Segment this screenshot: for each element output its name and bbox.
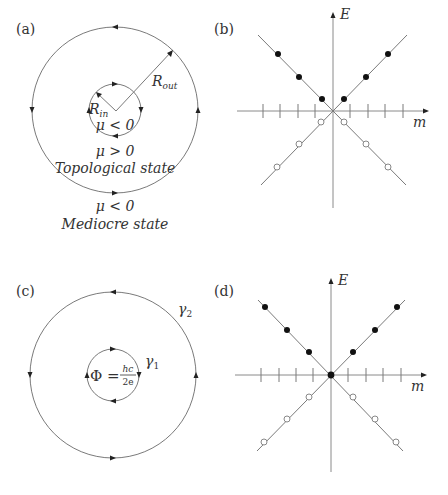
x-axis-arrow-icon [423, 109, 429, 114]
panel-a: (a) Rin Rout μ < 0 μ > 0 Topological sta… [16, 21, 201, 232]
arrow-left-icon [110, 399, 116, 404]
panel-d-label: (d) [214, 283, 234, 299]
x-axis-label: m [411, 378, 424, 394]
arrow-up-icon [196, 107, 201, 113]
panel-b-label: (b) [214, 21, 234, 37]
zero-mode-dot [328, 372, 335, 379]
empty-states [261, 394, 399, 445]
y-axis-label: E [337, 272, 348, 288]
arrow-down-icon [137, 372, 142, 378]
r-out-label: Rout [151, 73, 178, 91]
x-axis-arrow-icon [421, 373, 427, 378]
annulus-region-label: μ > 0 [96, 143, 135, 159]
inner-region-label: μ < 0 [96, 117, 135, 133]
arrow-left-icon [110, 290, 116, 295]
panel-b: (b) E m [214, 6, 429, 208]
y-axis-arrow-icon [331, 12, 336, 18]
arrow-right-icon [112, 191, 118, 196]
topological-state-label: Topological state [55, 160, 176, 176]
x-axis-label: m [413, 114, 426, 130]
arrow-left-icon [112, 25, 118, 30]
flux-numerator: hc [123, 364, 134, 374]
flux-denominator: 2e [122, 377, 133, 387]
panel-c: (c) Φ = hc 2e γ1 γ2 [16, 283, 199, 461]
arrow-left-icon [112, 134, 118, 139]
arrow-down-icon [30, 107, 35, 113]
arrow-right-icon [110, 456, 116, 461]
panel-d: (d) E m [214, 272, 427, 472]
arrow-up-icon [85, 372, 90, 378]
flux-lhs: Φ = [90, 367, 120, 385]
arrow-down-icon [28, 372, 33, 378]
figure: (a) Rin Rout μ < 0 μ > 0 Topological sta… [0, 0, 448, 495]
mediocre-state-label: Mediocre state [61, 216, 169, 232]
y-axis-label: E [339, 6, 350, 22]
y-axis-arrow-icon [329, 278, 334, 284]
arrow-right-icon [110, 347, 116, 352]
panel-c-label: (c) [16, 283, 35, 299]
gamma1-label: γ1 [145, 353, 159, 371]
outer-region-label: μ < 0 [96, 198, 135, 214]
arrow-right-icon [112, 82, 118, 87]
panel-a-label: (a) [16, 21, 35, 37]
arrow-down-icon [139, 107, 144, 113]
arrow-up-icon [194, 372, 199, 378]
gamma2-label: γ2 [178, 301, 192, 319]
